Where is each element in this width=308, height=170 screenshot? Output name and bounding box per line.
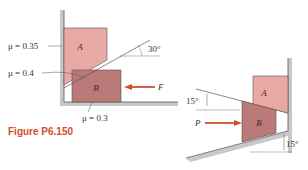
block-b-label: B <box>93 83 99 93</box>
angle-bottom-label: 15° <box>286 139 299 149</box>
force-f-label: F <box>157 82 164 92</box>
force-f-arrowhead <box>124 84 132 90</box>
angle-top-label: 15° <box>186 96 199 106</box>
left-wall <box>60 10 64 105</box>
figure-caption: Figure P6.150 <box>8 126 73 137</box>
mu-b-floor-label: μ = 0.3 <box>82 113 108 123</box>
right-diagram: A B 15° 15° P <box>186 58 299 162</box>
force-p-label: P <box>194 118 201 128</box>
figure-canvas: A B μ = 0.35 μ = 0.4 μ = 0.3 30° F Figur… <box>0 0 308 170</box>
left-floor <box>60 102 178 106</box>
block-b-right-label: B <box>256 118 262 128</box>
force-p-arrowhead <box>234 120 242 126</box>
mu-a-wall-label: μ = 0.35 <box>8 41 39 51</box>
left-diagram: A B μ = 0.35 μ = 0.4 μ = 0.3 30° F Figur… <box>8 10 178 137</box>
inclined-floor <box>186 131 292 162</box>
block-a-label: A <box>76 42 83 52</box>
block-a-right-label: A <box>260 88 267 98</box>
mu-ab-label: μ = 0.4 <box>8 68 34 78</box>
angle-30-label: 30° <box>148 44 161 54</box>
